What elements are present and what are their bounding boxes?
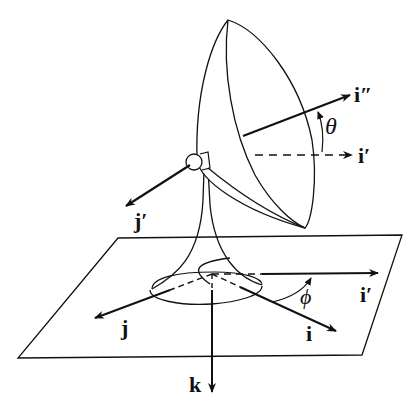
- dish-outer-rim: [197, 20, 315, 228]
- axis-j-prime: [126, 165, 190, 206]
- label-i-prime-lower: i′: [360, 284, 372, 306]
- label-j-prime: j′: [134, 210, 148, 232]
- hinge-joint: [186, 154, 202, 170]
- antenna-diagram: [0, 0, 418, 413]
- axis-j-dashed: [170, 274, 212, 290]
- axis-i-prime-lower: [262, 273, 378, 274]
- pedestal-ellipse-top: [152, 272, 262, 289]
- label-j: j: [121, 317, 128, 339]
- label-phi: ϕ: [300, 286, 311, 308]
- pedestal-left-curve: [152, 170, 204, 289]
- ground-plane: [18, 235, 402, 358]
- axis-i-dashed: [212, 274, 240, 287]
- label-k: k: [189, 374, 201, 396]
- label-i-prime-upper: i′: [358, 145, 370, 167]
- theta-arc: [318, 112, 323, 152]
- axis-i: [240, 287, 336, 331]
- axis-j: [95, 290, 170, 318]
- label-theta: θ: [325, 114, 337, 138]
- label-i-double-prime: i″: [354, 84, 372, 106]
- label-i: i: [306, 323, 312, 345]
